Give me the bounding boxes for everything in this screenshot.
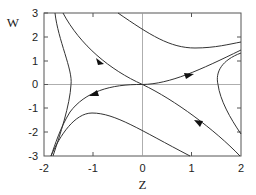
y-tick-label: -2 xyxy=(28,126,38,138)
curve-unstable-right xyxy=(143,50,242,85)
phase-portrait-chart: 3 2 1 0 -1 -2 -3 -2 -1 0 1 2 W Z xyxy=(0,0,256,195)
curve-lower xyxy=(51,113,190,156)
arrow-down-right-icon xyxy=(96,58,104,65)
curve-right-branch xyxy=(217,53,241,134)
y-tick-label: 2 xyxy=(32,31,38,43)
x-tick-label: -2 xyxy=(39,162,49,174)
x-tick-label: 2 xyxy=(238,162,244,174)
y-axis-label: W xyxy=(7,15,20,30)
y-tick-label: 3 xyxy=(32,7,38,19)
x-axis-label: Z xyxy=(139,177,147,192)
arrow-left-icon xyxy=(89,90,99,96)
x-tick-label: 1 xyxy=(188,162,194,174)
curve-upper xyxy=(118,13,241,48)
x-tick-label: 0 xyxy=(139,162,145,174)
y-tick-label: 1 xyxy=(32,55,38,67)
y-tick-label: 0 xyxy=(32,78,38,90)
x-tick-label: -1 xyxy=(88,162,98,174)
arrow-right-icon xyxy=(184,73,194,79)
arrow-up-left-icon xyxy=(194,120,203,127)
y-tick-label: -1 xyxy=(28,102,38,114)
y-tick-label: -3 xyxy=(28,150,38,162)
